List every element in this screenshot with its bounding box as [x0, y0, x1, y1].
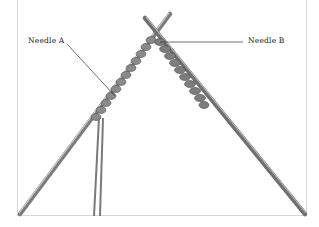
- knitting-illustration: [0, 0, 319, 227]
- label-needle-b: Needle B: [248, 36, 285, 45]
- stitches-needle-b: [155, 39, 210, 109]
- leader-line-a: [67, 44, 115, 96]
- label-needle-a: Needle A: [28, 36, 64, 45]
- yarn-tail: [94, 118, 103, 216]
